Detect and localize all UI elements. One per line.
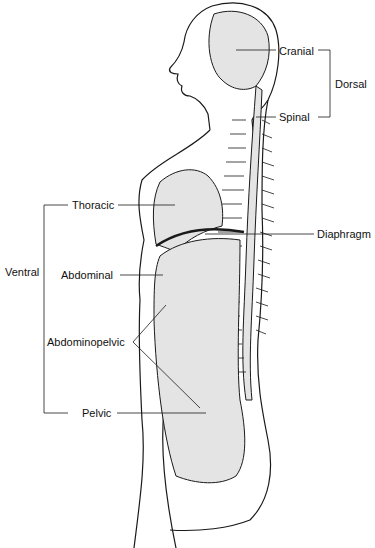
label-abdominal: Abdominal [61,269,113,281]
face-profile [169,6,212,130]
label-abdominopelvic: Abdominopelvic [47,336,125,348]
label-ventral: Ventral [5,266,39,278]
label-diaphragm: Diaphragm [317,228,371,240]
label-thoracic: Thoracic [72,199,114,211]
leg-outline [170,520,250,531]
label-pelvic: Pelvic [82,407,111,419]
spinal-cavity [243,86,262,400]
label-spinal: Spinal [279,111,310,123]
label-dorsal: Dorsal [335,78,367,90]
abdominopelvic-cavity [154,239,245,483]
body-cavities-diagram: Cranial Dorsal Spinal Thoracic Diaphragm… [0,0,375,548]
label-cranial: Cranial [279,45,314,57]
body-outline-figure [0,0,375,548]
